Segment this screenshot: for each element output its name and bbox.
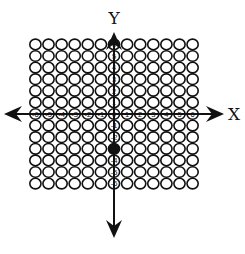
x-tick-label: 2 [138,110,142,119]
grid-circle [135,178,146,189]
grid-circle [161,39,172,50]
grid-circle [161,120,172,131]
grid-circle [30,51,41,62]
x-tick-label: 1 [125,110,129,119]
y-tick-label: 4 [112,63,116,72]
y-tick-label: -5 [111,168,118,177]
grid-circle [56,178,67,189]
x-tick-label: -6 [32,110,39,119]
grid-circle [82,155,93,166]
grid-circle [135,39,146,50]
grid-circle [95,155,106,166]
grid-circle [148,155,159,166]
grid-circle [30,167,41,178]
grid-circle [69,167,80,178]
grid-circle [69,143,80,154]
grid-circle [148,39,159,50]
grid-circle [43,132,54,143]
grid-circle [187,178,198,189]
grid-circle [56,167,67,178]
grid-circle [135,132,146,143]
grid-circle [174,74,185,85]
grid-circle [95,178,106,189]
grid-circle [174,97,185,108]
y-axis-label: Y [107,8,120,28]
grid-circle [82,143,93,154]
grid-circle [122,97,133,108]
grid-circle [174,51,185,62]
grid-circle [56,85,67,96]
grid-circle [187,85,198,96]
grid-circle [187,39,198,50]
x-tick-label: -3 [71,110,78,119]
grid-circle [187,62,198,73]
grid-circle [56,97,67,108]
grid-circle [82,39,93,50]
grid-circle [187,167,198,178]
grid-circle [56,132,67,143]
grid-circle [30,97,41,108]
grid-circle [95,39,106,50]
grid-circle [95,167,106,178]
grid-circle [174,178,185,189]
y-tick-label: -2 [111,133,118,142]
grid-circle [69,120,80,131]
grid-circle [122,74,133,85]
grid-circle [43,97,54,108]
grid-circle [82,120,93,131]
grid-circle [43,85,54,96]
grid-circle [148,143,159,154]
grid-circle [95,51,106,62]
grid-circle [187,120,198,131]
grid-circle [148,74,159,85]
grid-circle [122,132,133,143]
grid-circle [135,51,146,62]
grid-circle [148,178,159,189]
grid-circle [95,85,106,96]
grid-circle [30,155,41,166]
y-tick-label: -1 [111,121,118,130]
grid-circle [174,143,185,154]
grid-circle [122,39,133,50]
grid-circle [122,143,133,154]
grid-circle [135,167,146,178]
grid-circle [135,62,146,73]
grid-circle [187,143,198,154]
grid-circle [161,167,172,178]
y-tick-label: -4 [111,156,118,165]
grid-circle [30,143,41,154]
grid-circle [43,143,54,154]
grid-circle [122,85,133,96]
grid-circle [43,178,54,189]
grid-circle [135,120,146,131]
x-tick-label: 4 [164,110,168,119]
grid-circle [56,62,67,73]
grid-circle [148,132,159,143]
grid-circle [148,167,159,178]
x-tick-label: 5 [177,110,181,119]
x-tick-label: -2 [84,110,91,119]
grid-circle [174,62,185,73]
grid-circle [43,74,54,85]
coordinate-grid-diagram: Y X -6-5-4-3-2-10123456654321-1-2-4-5-6 [0,0,245,254]
grid-circle [174,85,185,96]
grid-circle [82,97,93,108]
grid-circle [69,62,80,73]
grid-circle [43,62,54,73]
grid-circle [69,85,80,96]
grid-circle [95,97,106,108]
y-tick-label: 1 [112,98,116,107]
x-tick-label: 3 [151,110,155,119]
x-tick-label: -4 [58,110,65,119]
grid-circle [69,74,80,85]
grid-circle [161,97,172,108]
grid-circle [30,62,41,73]
grid-circle [43,155,54,166]
grid-circle [30,120,41,131]
grid-circle [56,51,67,62]
grid-circle [30,178,41,189]
grid-circle [82,74,93,85]
grid-circle [161,143,172,154]
grid-circle [174,155,185,166]
grid-circle [135,155,146,166]
